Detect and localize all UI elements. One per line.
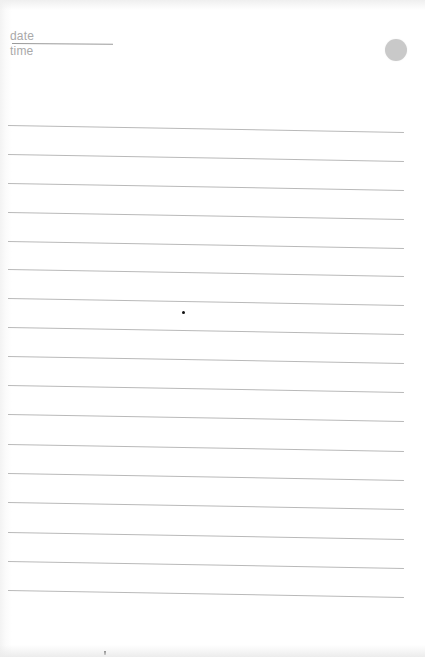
ruled-line xyxy=(8,269,404,277)
ink-dot xyxy=(182,311,185,314)
time-label: time xyxy=(10,44,33,58)
ruled-line xyxy=(8,385,404,393)
ruled-line xyxy=(8,241,404,249)
ruled-line xyxy=(8,590,404,598)
circle-mark-icon xyxy=(385,39,407,61)
date-label: date xyxy=(10,29,34,43)
notepad-page: date time xyxy=(0,0,425,657)
ruled-line xyxy=(8,183,404,191)
ruled-line xyxy=(8,154,404,162)
ruled-line xyxy=(8,298,404,306)
ruled-line xyxy=(8,502,404,510)
ruled-line xyxy=(8,327,404,335)
page-top-shadow xyxy=(0,0,425,10)
ruled-line xyxy=(8,473,404,481)
page-bottom-shadow xyxy=(0,645,425,657)
ruled-line xyxy=(8,414,404,422)
ruled-line xyxy=(8,561,404,569)
ruled-line xyxy=(8,125,404,133)
ruled-line xyxy=(8,212,404,220)
ruled-line xyxy=(8,532,404,540)
ruled-line xyxy=(8,444,404,452)
ruled-line xyxy=(8,356,404,364)
